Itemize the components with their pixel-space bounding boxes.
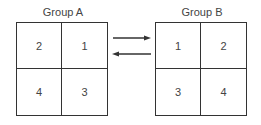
group-b-grid: 1 2 3 4 [155, 22, 247, 116]
arrow-left-icon [112, 52, 151, 57]
group-b-title: Group B [155, 6, 249, 18]
group-b-cell: 2 [201, 23, 246, 69]
group-b-cell: 4 [201, 69, 246, 115]
group-b-cell: 3 [156, 69, 201, 115]
group-b-cell: 1 [156, 23, 201, 69]
arrow-right-icon [113, 36, 151, 41]
